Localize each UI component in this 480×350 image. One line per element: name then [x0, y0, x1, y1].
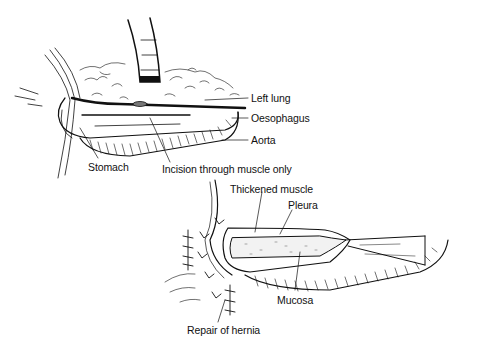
label-pleura: Pleura — [288, 200, 318, 211]
label-left-lung: Left lung — [251, 93, 290, 104]
illustration — [0, 0, 480, 350]
label-oesophagus: Oesophagus — [251, 113, 310, 124]
label-aorta: Aorta — [251, 135, 276, 146]
suture-icons — [183, 218, 235, 315]
retractor-icon — [128, 18, 160, 82]
top-panel-drawing — [15, 18, 248, 178]
label-thickened-muscle: Thickened muscle — [230, 184, 313, 195]
label-stomach: Stomach — [88, 162, 129, 173]
label-mucosa: Mucosa — [277, 295, 313, 306]
label-repair-of-hernia: Repair of hernia — [187, 325, 260, 336]
label-incision: Incision through muscle only — [162, 164, 292, 175]
